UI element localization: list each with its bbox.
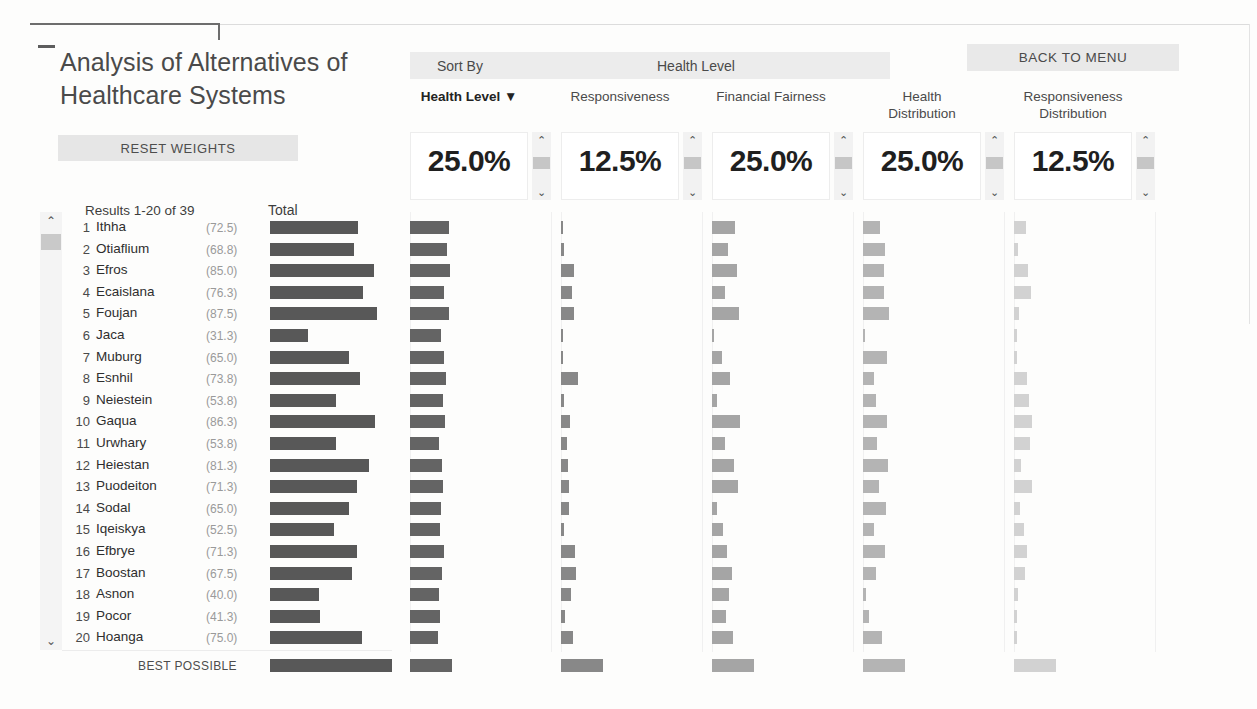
criteria-title-3[interactable]: Financial Fairness (712, 88, 830, 105)
criteria-bar-2 (561, 351, 563, 364)
criteria-bar-3 (712, 502, 717, 515)
criteria-title-4[interactable]: HealthDistribution (863, 88, 981, 122)
criteria-bar-2 (561, 372, 578, 385)
table-row[interactable]: 12Heiestan(81.3) (0, 456, 1257, 478)
table-row[interactable]: 13Puodeiton(71.3) (0, 477, 1257, 499)
alternative-name[interactable]: Ecaislana (96, 284, 155, 299)
table-row[interactable]: 9Neiestein(53.8) (0, 391, 1257, 413)
alternative-name[interactable]: Ithha (96, 219, 126, 234)
criteria-weight-slider-5[interactable]: ⌃⌄ (1136, 132, 1155, 200)
weight-increase-icon[interactable]: ⌃ (834, 132, 853, 148)
alternative-name[interactable]: Gaqua (96, 413, 137, 428)
weight-slider-thumb[interactable] (684, 157, 701, 169)
alternative-name[interactable]: Boostan (96, 565, 146, 580)
results-count-label: Results 1-20 of 39 (85, 203, 195, 218)
alternative-name[interactable]: Muburg (96, 349, 142, 364)
criteria-weight-slider-4[interactable]: ⌃⌄ (985, 132, 1004, 200)
criteria-bar-4 (863, 329, 865, 342)
weight-decrease-icon[interactable]: ⌄ (985, 184, 1004, 200)
weight-increase-icon[interactable]: ⌃ (1136, 132, 1155, 148)
best-possible-row: BEST POSSIBLE (0, 655, 1257, 677)
table-row[interactable]: 8Esnhil(73.8) (0, 369, 1257, 391)
weight-decrease-icon[interactable]: ⌄ (1136, 184, 1155, 200)
weight-decrease-icon[interactable]: ⌄ (683, 184, 702, 200)
table-row[interactable]: 14Sodal(65.0) (0, 499, 1257, 521)
alternative-name[interactable]: Hoanga (96, 629, 143, 644)
table-row[interactable]: 20Hoanga(75.0) (0, 628, 1257, 650)
weight-decrease-icon[interactable]: ⌄ (834, 184, 853, 200)
criteria-title-2[interactable]: Responsiveness (561, 88, 679, 105)
total-score-bar (270, 264, 374, 277)
alternative-name[interactable]: Efbrye (96, 543, 135, 558)
weight-increase-icon[interactable]: ⌃ (985, 132, 1004, 148)
table-row[interactable]: 2Otiaflium(68.8) (0, 240, 1257, 262)
alternative-name[interactable]: Pocor (96, 608, 131, 623)
table-row[interactable]: 5Foujan(87.5) (0, 304, 1257, 326)
total-score-bar (270, 307, 377, 320)
alternative-name[interactable]: Neiestein (96, 392, 152, 407)
criteria-bar-1 (410, 459, 442, 472)
table-row[interactable]: 19Pocor(41.3) (0, 607, 1257, 629)
criteria-weight-slider-1[interactable]: ⌃⌄ (532, 132, 551, 200)
sort-by-value[interactable]: Health Level (657, 58, 735, 74)
weight-slider-thumb[interactable] (835, 157, 852, 169)
row-rank: 12 (68, 458, 90, 473)
alternative-name[interactable]: Sodal (96, 500, 131, 515)
row-rank: 16 (68, 544, 90, 559)
table-row[interactable]: 11Urwhary(53.8) (0, 434, 1257, 456)
criteria-bar-3 (712, 351, 722, 364)
back-to-menu-button[interactable]: BACK TO MENU (967, 44, 1179, 71)
alternative-name[interactable]: Jaca (96, 327, 125, 342)
criteria-bar-3 (712, 286, 725, 299)
weight-slider-thumb[interactable] (986, 157, 1003, 169)
table-row[interactable]: 4Ecaislana(76.3) (0, 283, 1257, 305)
table-row[interactable]: 6Jaca(31.3) (0, 326, 1257, 348)
weight-increase-icon[interactable]: ⌃ (532, 132, 551, 148)
criteria-bar-3 (712, 372, 730, 385)
alternative-name[interactable]: Puodeiton (96, 478, 157, 493)
table-row[interactable]: 10Gaqua(86.3) (0, 412, 1257, 434)
criteria-weight-value-3[interactable]: 25.0% (712, 144, 830, 178)
alternative-name[interactable]: Efros (96, 262, 128, 277)
weight-slider-thumb[interactable] (1137, 157, 1154, 169)
criteria-bar-1 (410, 502, 441, 515)
criteria-bar-2 (561, 588, 571, 601)
weight-increase-icon[interactable]: ⌃ (683, 132, 702, 148)
criteria-title-1[interactable]: Health Level ▼ (410, 88, 528, 105)
weight-slider-thumb[interactable] (533, 157, 550, 169)
alternative-name[interactable]: Urwhary (96, 435, 146, 450)
table-row[interactable]: 3Efros(85.0) (0, 261, 1257, 283)
alternative-name[interactable]: Esnhil (96, 370, 133, 385)
weight-decrease-icon[interactable]: ⌄ (532, 184, 551, 200)
best-possible-label: BEST POSSIBLE (138, 659, 237, 673)
alternative-name[interactable]: Otiaflium (96, 241, 149, 256)
table-row[interactable]: 1Ithha(72.5) (0, 218, 1257, 240)
criteria-weight-slider-2[interactable]: ⌃⌄ (683, 132, 702, 200)
criteria-bar-2 (561, 307, 574, 320)
row-rank: 4 (68, 285, 90, 300)
criteria-bar-5 (1014, 502, 1020, 515)
criteria-weight-value-1[interactable]: 25.0% (410, 144, 528, 178)
criteria-bar-1 (410, 307, 449, 320)
table-row[interactable]: 15Iqeiskya(52.5) (0, 520, 1257, 542)
table-row[interactable]: 7Muburg(65.0) (0, 348, 1257, 370)
criteria-weight-value-2[interactable]: 12.5% (561, 144, 679, 178)
alternative-name[interactable]: Iqeiskya (96, 521, 146, 536)
alternative-score: (87.5) (206, 307, 237, 321)
reset-weights-button[interactable]: RESET WEIGHTS (58, 135, 298, 161)
criteria-title-5[interactable]: ResponsivenessDistribution (1014, 88, 1132, 122)
criteria-bar-3 (712, 631, 733, 644)
alternative-name[interactable]: Foujan (96, 305, 137, 320)
criteria-bar-5 (1014, 307, 1019, 320)
table-row[interactable]: 17Boostan(67.5) (0, 564, 1257, 586)
table-row[interactable]: 18Asnon(40.0) (0, 585, 1257, 607)
criteria-bar-5 (1014, 610, 1017, 623)
criteria-weight-value-4[interactable]: 25.0% (863, 144, 981, 178)
criteria-weight-slider-3[interactable]: ⌃⌄ (834, 132, 853, 200)
alternative-name[interactable]: Asnon (96, 586, 134, 601)
criteria-bar-5 (1014, 437, 1030, 450)
table-row[interactable]: 16Efbrye(71.3) (0, 542, 1257, 564)
best-possible-criteria-bar-5 (1014, 659, 1056, 672)
criteria-weight-value-5[interactable]: 12.5% (1014, 144, 1132, 178)
alternative-name[interactable]: Heiestan (96, 457, 149, 472)
